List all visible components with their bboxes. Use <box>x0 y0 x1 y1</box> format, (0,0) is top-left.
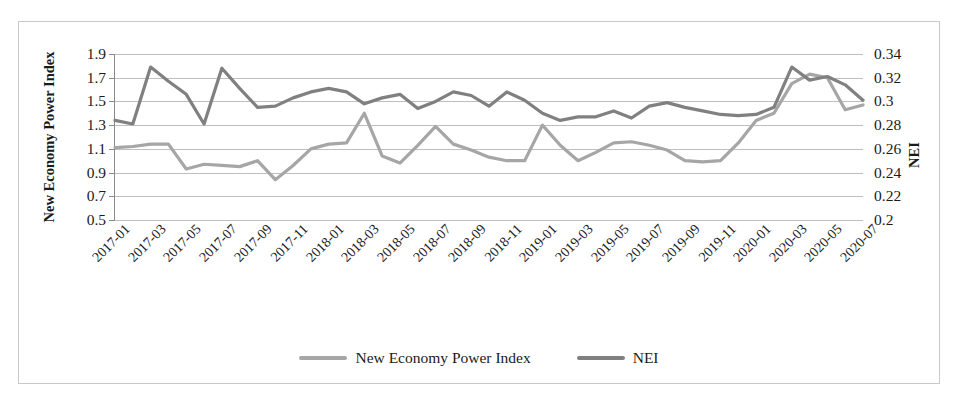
y-axis-left-tick-label: 1.3 <box>87 117 106 133</box>
x-axis-tick-label: 2020-01 <box>731 222 774 265</box>
x-axis-tick-label: 2019-09 <box>660 222 703 265</box>
x-axis-tick-label: 2019-05 <box>589 222 632 265</box>
x-axis-tick-label: 2020-03 <box>767 222 810 265</box>
y-axis-left-tick-label: 0.7 <box>87 188 106 204</box>
y-axis-right-tick-label: 0.26 <box>874 141 901 157</box>
x-axis-tick-label: 2018-07 <box>411 222 454 265</box>
gridline <box>115 220 863 221</box>
x-axis-tick-label: 2017-03 <box>126 222 169 265</box>
y-axis-right-tick-label: 0.2 <box>874 212 893 228</box>
y-axis-left-tick-label: 1.9 <box>87 46 106 62</box>
x-axis-tick-label: 2019-03 <box>553 222 596 265</box>
x-axis-tick-label: 2019-07 <box>624 222 667 265</box>
chart-legend: New Economy Power IndexNEI <box>19 350 939 366</box>
x-axis-tick-label: 2020-05 <box>802 222 845 265</box>
y-axis-right-tick-label: 0.22 <box>874 188 901 204</box>
y-axis-left-tick-label: 1.7 <box>87 70 106 86</box>
series-line <box>115 74 863 180</box>
legend-swatch-icon <box>577 356 625 360</box>
legend-label: NEI <box>633 350 659 366</box>
series-lines <box>115 54 863 220</box>
x-axis-tick-label: 2017-11 <box>268 222 311 265</box>
y-axis-right-tick-label: 0.32 <box>874 70 901 86</box>
x-axis-tick-label: 2020-07 <box>838 222 881 265</box>
x-axis-tick-label: 2019-01 <box>517 222 560 265</box>
chart-figure: New Economy Power Index NEI 1.90.341.70.… <box>18 21 940 384</box>
x-axis-tick-label: 2018-09 <box>446 222 489 265</box>
y-axis-right-tick-label: 0.34 <box>874 46 901 62</box>
legend-swatch-icon <box>299 356 347 360</box>
y-axis-left-tick-label: 1.5 <box>87 93 106 109</box>
y-axis-left-tick-label: 0.5 <box>87 212 106 228</box>
y-axis-tick-mark <box>109 149 115 150</box>
y-axis-tick-mark <box>109 173 115 174</box>
x-axis-tick-label: 2017-05 <box>161 222 204 265</box>
y-axis-right-tick-label: 0.28 <box>874 117 901 133</box>
y-axis-tick-mark <box>109 196 115 197</box>
y-axis-tick-mark <box>109 54 115 55</box>
y-axis-left-title: New Economy Power Index <box>41 52 58 223</box>
x-axis-tick-labels: 2017-012017-032017-052017-072017-092017-… <box>115 222 863 292</box>
legend-label: New Economy Power Index <box>355 350 530 366</box>
y-axis-tick-mark <box>109 101 115 102</box>
plot-area: 1.90.341.70.321.50.31.30.281.10.260.90.2… <box>115 54 863 220</box>
y-axis-tick-mark <box>109 78 115 79</box>
legend-item[interactable]: NEI <box>577 350 659 366</box>
x-axis-tick-label: 2018-03 <box>339 222 382 265</box>
legend-item[interactable]: New Economy Power Index <box>299 350 530 366</box>
x-axis-tick-label: 2017-07 <box>197 222 240 265</box>
y-axis-right-title: NEI <box>906 142 923 168</box>
x-axis-tick-label: 2018-11 <box>482 222 525 265</box>
y-axis-right-tick-label: 0.3 <box>874 93 893 109</box>
series-line <box>115 67 863 124</box>
x-axis-tick-label: 2017-09 <box>232 222 275 265</box>
x-axis-tick-label: 2018-01 <box>304 222 347 265</box>
y-axis-tick-mark <box>109 125 115 126</box>
y-axis-left-tick-label: 0.9 <box>87 165 106 181</box>
x-axis-tick-label: 2018-05 <box>375 222 418 265</box>
x-axis-tick-label: 2017-01 <box>90 222 133 265</box>
y-axis-right-tick-label: 0.24 <box>874 165 901 181</box>
y-axis-tick-mark <box>109 220 115 221</box>
y-axis-left-tick-label: 1.1 <box>87 141 106 157</box>
x-axis-tick-label: 2019-11 <box>696 222 739 265</box>
